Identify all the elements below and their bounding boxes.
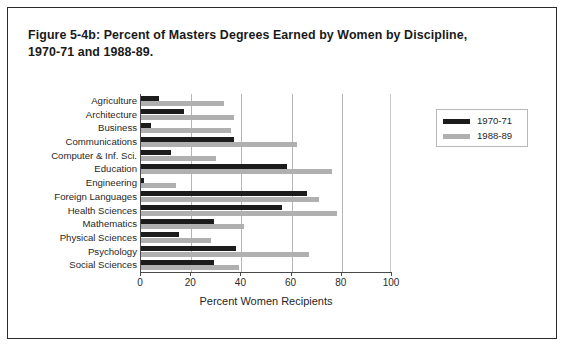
x-axis-title: Percent Women Recipients [140, 295, 392, 307]
category-label: Agriculture [91, 94, 137, 108]
chart-category-row: Mathematics [141, 217, 390, 231]
bar-series-1988-89 [141, 156, 216, 161]
bar-series-1988-89 [141, 265, 239, 270]
bar-series-1970-71 [141, 123, 151, 128]
chart-category-row: Foreign Languages [141, 190, 390, 204]
bar-series-1970-71 [141, 232, 179, 237]
bar-series-1970-71 [141, 246, 236, 251]
chart-category-row: Social Sciences [141, 258, 390, 272]
legend-swatch-icon-1 [443, 134, 470, 139]
bar-series-1970-71 [141, 164, 287, 169]
x-axis-tick [341, 272, 342, 276]
bar-series-1988-89 [141, 197, 319, 202]
bar-series-1970-71 [141, 150, 171, 155]
bar-series-1970-71 [141, 137, 234, 142]
bar-series-1988-89 [141, 183, 176, 188]
x-axis-tick [140, 272, 141, 276]
bar-series-1970-71 [141, 219, 214, 224]
bar-series-1988-89 [141, 238, 211, 243]
bar-series-1988-89 [141, 252, 309, 257]
bar-series-1988-89 [141, 169, 332, 174]
x-axis-tick-label: 0 [120, 277, 160, 288]
figure-title-line-2: 1970-71 and 1988-89. [28, 44, 538, 61]
chart-plot-area: AgricultureArchitectureBusinessCommunica… [140, 94, 391, 272]
bar-series-1970-71 [141, 205, 282, 210]
x-axis-tick [240, 272, 241, 276]
chart-category-row: Education [141, 162, 390, 176]
chart-category-row: Physical Sciences [141, 231, 390, 245]
bar-series-1988-89 [141, 211, 337, 216]
bar-series-1988-89 [141, 224, 244, 229]
x-axis-line [140, 272, 392, 273]
x-axis-tick-label: 100 [371, 277, 411, 288]
category-label: Computer & Inf. Sci. [51, 149, 137, 163]
category-label: Physical Sciences [60, 231, 137, 245]
x-axis-tick-label: 20 [170, 277, 210, 288]
bar-series-1970-71 [141, 178, 144, 183]
bar-series-1970-71 [141, 96, 159, 101]
bar-series-1988-89 [141, 101, 224, 106]
category-label: Engineering [86, 176, 137, 190]
x-axis-tick-label: 40 [220, 277, 260, 288]
chart-category-row: Computer & Inf. Sci. [141, 149, 390, 163]
x-axis-tick-label: 60 [271, 277, 311, 288]
bar-series-1970-71 [141, 109, 184, 114]
figure-title: Figure 5-4b: Percent of Masters Degrees … [28, 27, 538, 61]
x-axis-tick-label: 80 [321, 277, 361, 288]
category-label: Communications [66, 135, 137, 149]
bar-series-1988-89 [141, 115, 234, 120]
chart-legend: 1970-71 1988-89 [436, 109, 528, 147]
category-label: Business [98, 121, 137, 135]
chart-category-row: Engineering [141, 176, 390, 190]
figure-title-line-1: Figure 5-4b: Percent of Masters Degrees … [28, 28, 467, 42]
bar-series-1988-89 [141, 128, 231, 133]
legend-label-1: 1988-89 [477, 129, 512, 143]
x-axis-tick [391, 272, 392, 276]
legend-item-0: 1970-71 [443, 114, 523, 128]
legend-swatch-icon-0 [443, 119, 470, 124]
x-axis-tick [190, 272, 191, 276]
chart-category-row: Psychology [141, 245, 390, 259]
category-label: Health Sciences [68, 204, 137, 218]
chart-category-row: Business [141, 121, 390, 135]
x-axis-tick [291, 272, 292, 276]
legend-label-0: 1970-71 [477, 114, 512, 128]
legend-item-1: 1988-89 [443, 129, 523, 143]
category-label: Architecture [86, 108, 137, 122]
bar-series-1970-71 [141, 260, 214, 265]
category-label: Foreign Languages [54, 190, 137, 204]
category-label: Social Sciences [69, 258, 137, 272]
chart-bars-container: AgricultureArchitectureBusinessCommunica… [141, 94, 390, 272]
bar-series-1988-89 [141, 142, 297, 147]
bar-series-1970-71 [141, 191, 307, 196]
chart-category-row: Agriculture [141, 94, 390, 108]
chart-category-row: Architecture [141, 108, 390, 122]
category-label: Mathematics [83, 217, 137, 231]
category-label: Psychology [88, 245, 137, 259]
chart-category-row: Health Sciences [141, 204, 390, 218]
category-label: Education [94, 162, 137, 176]
chart-category-row: Communications [141, 135, 390, 149]
figure-frame: Figure 5-4b: Percent of Masters Degrees … [7, 7, 557, 339]
